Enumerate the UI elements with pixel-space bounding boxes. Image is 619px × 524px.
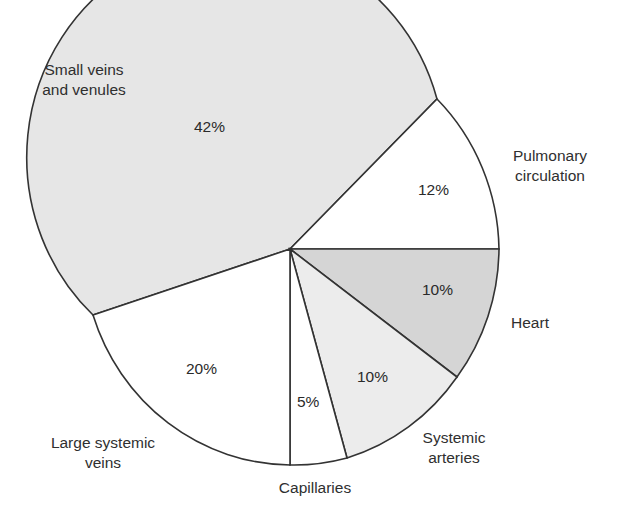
label-systemic-arteries-line2: arteries <box>414 448 494 468</box>
label-pulmonary-circulation: Pulmonary circulation <box>500 146 600 186</box>
label-small-veins-line1: Small veins <box>30 60 138 80</box>
label-small-veins: Small veins and venules <box>30 60 138 100</box>
pct-capillaries: 5% <box>297 393 319 411</box>
label-heart-text: Heart <box>500 313 560 333</box>
label-systemic-arteries: Systemic arteries <box>414 428 494 468</box>
label-small-veins-line2: and venules <box>30 80 138 100</box>
label-heart: Heart <box>500 313 560 333</box>
pct-systemic-arteries: 10% <box>357 368 388 386</box>
label-large-veins-line2: veins <box>38 453 168 473</box>
pct-large-veins: 20% <box>186 360 217 378</box>
label-large-systemic-veins: Large systemic veins <box>38 433 168 473</box>
label-pulmonary-line2: circulation <box>500 166 600 186</box>
pct-pulmonary: 12% <box>418 181 449 199</box>
pct-heart: 10% <box>422 281 453 299</box>
pct-small-veins: 42% <box>194 118 225 136</box>
label-pulmonary-line1: Pulmonary <box>500 146 600 166</box>
label-capillaries: Capillaries <box>265 478 365 498</box>
label-capillaries-text: Capillaries <box>265 478 365 498</box>
label-systemic-arteries-line1: Systemic <box>414 428 494 448</box>
label-large-veins-line1: Large systemic <box>38 433 168 453</box>
